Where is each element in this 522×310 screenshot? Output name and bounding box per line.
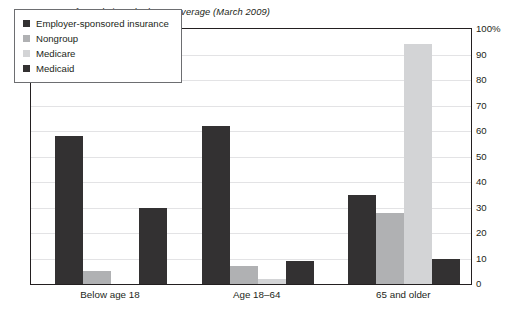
x-axis-tick-label: Age 18–64	[233, 289, 280, 300]
y-axis-tick-label: 70	[476, 99, 487, 110]
y-axis-tick-label: 10	[476, 252, 487, 263]
legend-swatch-icon	[23, 20, 30, 27]
bar[interactable]	[55, 136, 83, 284]
legend-item[interactable]: Nongroup	[23, 31, 169, 46]
y-axis-tick-label: 50	[476, 150, 487, 161]
legend-swatch-icon	[23, 50, 30, 57]
y-axis-tick-label: 80	[476, 74, 487, 85]
x-axis-tick-label: 65 and older	[376, 289, 430, 300]
y-axis-tick-label: 100%	[476, 23, 501, 34]
chart-legend: Employer-sponsored insuranceNongroupMedi…	[14, 9, 182, 83]
bar[interactable]	[139, 208, 167, 285]
legend-item[interactable]: Medicaid	[23, 61, 169, 76]
chart-figure: Percentage of population who have covera…	[0, 0, 522, 310]
legend-item-label: Nongroup	[36, 33, 78, 44]
legend-item[interactable]: Employer-sponsored insurance	[23, 16, 169, 31]
bar[interactable]	[286, 261, 314, 284]
bar[interactable]	[202, 126, 230, 284]
legend-swatch-icon	[23, 35, 30, 42]
legend-item-label: Medicare	[36, 48, 75, 59]
legend-swatch-icon	[23, 65, 30, 72]
bar[interactable]	[83, 271, 111, 284]
bar[interactable]	[376, 213, 404, 284]
x-axis-tick-label: Below age 18	[80, 289, 139, 300]
legend-item[interactable]: Medicare	[23, 46, 169, 61]
y-axis-tick-label: 40	[476, 176, 487, 187]
y-axis-tick-label: 60	[476, 125, 487, 136]
legend-item-label: Employer-sponsored insurance	[36, 18, 169, 29]
bar-group	[348, 29, 460, 284]
y-axis-tick-label: 90	[476, 48, 487, 59]
y-axis-tick-label: 30	[476, 201, 487, 212]
bar[interactable]	[432, 259, 460, 285]
bar[interactable]	[230, 266, 258, 284]
y-axis-tick-label: 0	[476, 278, 481, 289]
y-axis-tick-label: 20	[476, 227, 487, 238]
legend-item-label: Medicaid	[36, 63, 74, 74]
bar[interactable]	[404, 44, 432, 284]
bar-group	[202, 29, 314, 284]
bar[interactable]	[258, 279, 286, 284]
bar[interactable]	[348, 195, 376, 284]
